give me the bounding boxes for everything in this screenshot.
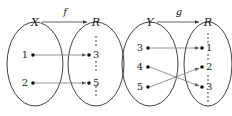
codomain-node-3: 3 [87,49,99,60]
codomain-node-r3: 3 [200,81,212,92]
codomain-ellipse-r1 [68,22,124,106]
domain-node-y3-label: 3 [137,42,143,53]
domain-node-y3-dot [146,46,150,50]
domain-ellipse-y [122,22,178,106]
mapping-diagrams-svg: X R f 1 2 [0,0,232,116]
domain-node-y4-label: 4 [137,61,143,72]
domain-node-y4-dot [146,65,150,69]
codomain-node-r3-label: 3 [206,81,212,92]
domain-node-y3: 3 [137,42,150,53]
mapping-arrow-4-to-3 [150,67,199,86]
codomain-node-5-label: 5 [93,77,99,88]
domain-node-1-dot [31,53,35,57]
domain-node-1-label: 1 [22,49,28,60]
domain-node-1: 1 [22,49,35,60]
codomain-node-r2: 2 [200,61,212,72]
function-label-g: g [176,6,182,17]
codomain-node-3-dot [87,53,91,57]
codomain-node-r2-dot [200,65,204,69]
codomain-node-r1-dot [200,46,204,50]
diagram-g-group: Y R g 3 4 [122,6,232,106]
codomain-node-r1: 1 [200,42,212,53]
domain-node-y5-label: 5 [137,81,143,92]
domain-node-y4: 4 [137,61,150,72]
codomain-node-3-label: 3 [93,49,99,60]
domain-node-2-label: 2 [22,77,28,88]
figure-canvas: X R f 1 2 [0,0,232,116]
domain-node-y5-dot [146,85,150,89]
codomain-node-5: 5 [87,77,99,88]
codomain-node-r2-label: 2 [206,61,212,72]
domain-node-y5: 5 [137,81,150,92]
codomain-node-r1-label: 1 [206,42,212,53]
codomain-node-r3-dot [200,85,204,89]
domain-ellipse-x [7,22,63,106]
function-label-f: f [62,6,69,17]
domain-node-2: 2 [22,77,35,88]
diagram-f-group: X R f 1 2 [7,6,124,106]
codomain-label-r1: R [91,16,100,29]
domain-node-2-dot [31,81,35,85]
codomain-node-5-dot [87,81,91,85]
domain-label-x: X [30,16,40,29]
codomain-label-r2: R [203,16,212,29]
